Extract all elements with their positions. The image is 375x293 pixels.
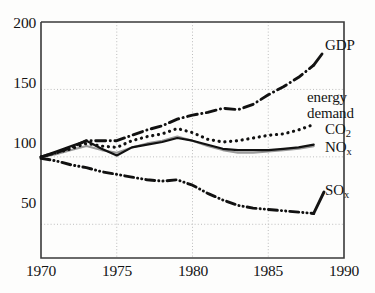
- series-label-gdp: GDP: [325, 38, 355, 53]
- label-leader-lines: [314, 54, 324, 213]
- sox-subscript: x: [344, 189, 349, 200]
- series-line-nox: [41, 137, 314, 157]
- co2-subscript: 2: [346, 128, 351, 139]
- x-axis-tick-1970: 1970: [18, 262, 64, 280]
- series-label-co2: CO2: [325, 122, 351, 137]
- series-label-energy-line2: demand: [307, 105, 354, 121]
- series-line-sox: [41, 158, 314, 213]
- y-axis-tick-100: 100: [0, 134, 36, 152]
- leader-gdp: [314, 54, 322, 65]
- y-axis-tick-150: 150: [0, 74, 36, 92]
- nox-text: NO: [325, 139, 346, 155]
- nox-subscript: x: [346, 146, 351, 157]
- series-label-energy-line1: energy: [307, 89, 347, 105]
- x-axis-tick-1990: 1990: [321, 262, 367, 280]
- series-label-nox: NOx: [325, 140, 352, 155]
- chart-container: 200 150 100 50 1970 1975 1980 1985 1990 …: [0, 0, 375, 293]
- y-axis-tick-200: 200: [0, 14, 36, 32]
- y-axis-tick-50: 50: [0, 194, 36, 212]
- leader-sox: [314, 192, 324, 213]
- series-line-gdp: [41, 65, 314, 157]
- x-axis-tick-1980: 1980: [170, 262, 216, 280]
- x-axis-tick-1975: 1975: [94, 262, 140, 280]
- co2-text: CO: [325, 121, 346, 137]
- series-label-sox: SOx: [325, 183, 349, 198]
- sox-text: SO: [325, 182, 344, 198]
- x-axis-tick-1985: 1985: [245, 262, 291, 280]
- line-chart-plot: [0, 0, 375, 293]
- series-label-energy-demand: energy demand: [307, 90, 354, 121]
